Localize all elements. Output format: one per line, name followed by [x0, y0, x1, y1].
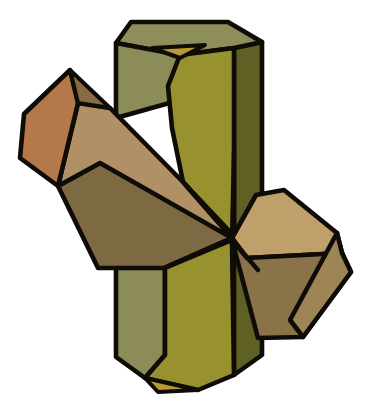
- junction-edge-up: [232, 152, 234, 238]
- crystal-figure-root: Cruciform penetration twin crystal: [0, 0, 370, 420]
- junction-edge-down: [232, 240, 234, 320]
- crystal-twin-illustration: Cruciform penetration twin crystal: [0, 0, 370, 420]
